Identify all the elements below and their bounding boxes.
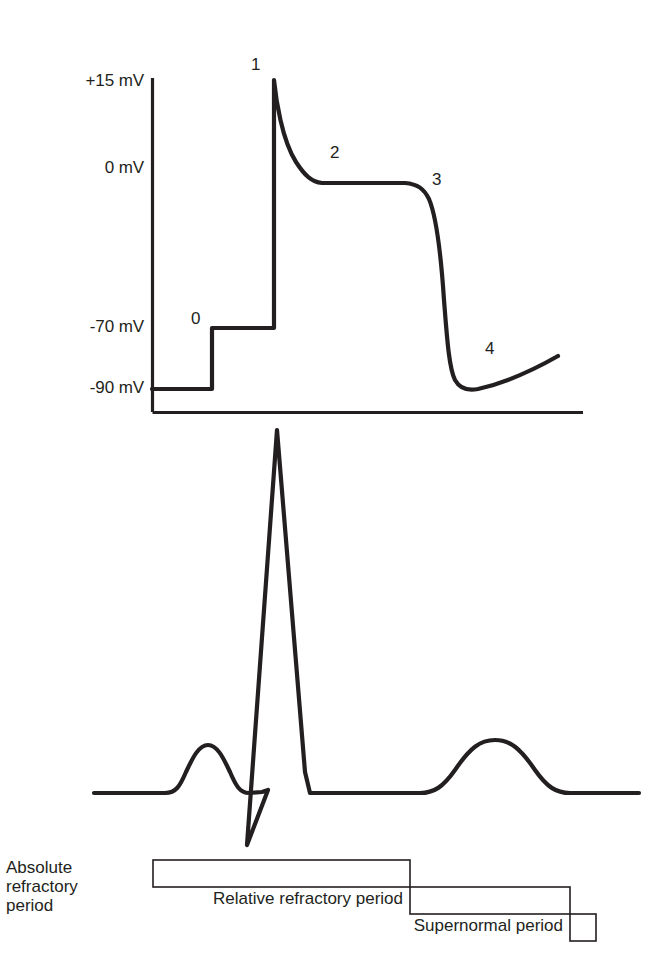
absolute-refractory-period-label: Absolute refractory period — [6, 858, 148, 915]
relative-refractory-period-label: Relative refractory period — [200, 889, 403, 908]
cardiac-action-potential-figure: +15 mV 0 mV -70 mV -90 mV 0 1 2 3 4 Abso… — [0, 0, 663, 970]
refractory-bars-svg — [0, 0, 663, 970]
relative-refractory-box — [410, 887, 570, 914]
supernormal-box — [570, 914, 596, 941]
absolute-refractory-box — [153, 860, 410, 887]
supernormal-period-label: Supernormal period — [390, 916, 563, 935]
